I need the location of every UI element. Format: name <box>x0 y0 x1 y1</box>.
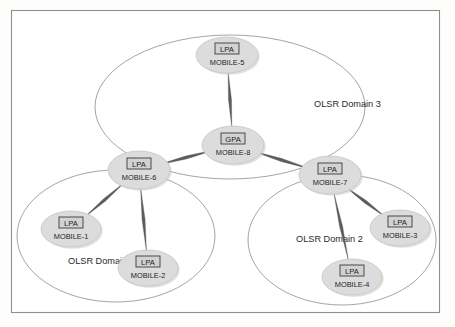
domain-label-domain-3: OLSR Domain 3 <box>314 99 381 109</box>
node-type-label: LPA <box>141 258 156 267</box>
node-type-label: LPA <box>132 160 147 169</box>
node-type-label: LPA <box>323 165 338 174</box>
node-name-label: MOBILE-2 <box>131 271 166 280</box>
node-ellipse[interactable] <box>41 211 101 247</box>
node-name-label: MOBILE-3 <box>383 231 418 240</box>
node-name-label: MOBILE-6 <box>122 173 157 182</box>
node-ellipse[interactable] <box>118 250 178 286</box>
node-ellipse[interactable] <box>322 259 382 295</box>
node-ellipse[interactable] <box>202 126 264 164</box>
domain-label-domain-2: OLSR Domain 2 <box>296 234 363 244</box>
diagram-canvas: OLSR Domain 1OLSR Domain 2OLSR Domain 3 … <box>0 0 455 327</box>
node-ellipse[interactable] <box>370 210 430 246</box>
node-type-label: LPA <box>393 218 408 227</box>
node-type-label: GPA <box>225 135 241 144</box>
node-name-label: MOBILE-5 <box>210 58 245 67</box>
node-ellipse[interactable] <box>299 156 361 194</box>
node-ellipse[interactable] <box>108 151 170 189</box>
node-name-label: MOBILE-7 <box>313 178 348 187</box>
node-type-label: LPA <box>64 219 79 228</box>
node-name-label: MOBILE-1 <box>54 232 89 241</box>
node-name-label: MOBILE-4 <box>335 280 370 289</box>
node-type-label: LPA <box>220 45 235 54</box>
node-name-label: MOBILE-8 <box>216 148 251 157</box>
topology-diagram: OLSR Domain 1OLSR Domain 2OLSR Domain 3 … <box>0 0 455 327</box>
node-type-label: LPA <box>345 267 360 276</box>
node-ellipse[interactable] <box>196 37 258 73</box>
